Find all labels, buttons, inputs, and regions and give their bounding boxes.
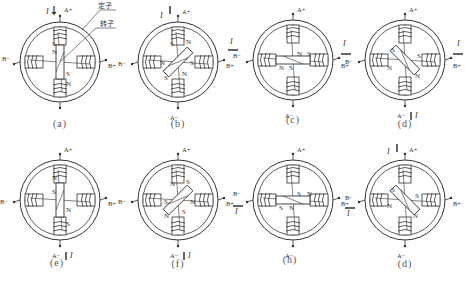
svg-text:N: N — [415, 72, 420, 80]
svg-text:B+: B+ — [226, 62, 234, 69]
svg-text:B+: B+ — [341, 200, 349, 207]
svg-text:B+: B+ — [108, 200, 116, 207]
svg-text:S: S — [297, 190, 301, 198]
svg-text:S: S — [164, 74, 168, 82]
svg-text:I: I — [386, 147, 390, 156]
svg-text:I: I — [187, 251, 191, 260]
svg-text:N: N — [66, 80, 71, 88]
svg-text:转子: 转子 — [100, 19, 114, 28]
svg-text:I: I — [229, 37, 233, 46]
svg-text:B+: B+ — [453, 200, 461, 207]
svg-text:A+: A+ — [182, 8, 191, 15]
svg-text:B−: B− — [0, 198, 8, 205]
svg-text:B−: B− — [118, 60, 126, 67]
svg-text:I: I — [69, 251, 73, 260]
caption-h: (h) — [283, 254, 298, 265]
svg-text:N: N — [170, 180, 175, 188]
panel-c: NS NS A+ A− B− B+ I — [233, 6, 351, 119]
svg-text:定子: 定子 — [98, 1, 112, 10]
caption-f: (f) — [172, 258, 185, 269]
svg-text:B−: B− — [2, 55, 10, 62]
svg-text:N: N — [164, 212, 169, 220]
svg-text:I: I — [414, 111, 418, 120]
svg-text:S: S — [190, 59, 194, 67]
svg-text:S: S — [307, 50, 311, 58]
svg-text:A+: A+ — [64, 6, 73, 13]
svg-text:B+: B+ — [453, 62, 461, 69]
caption-a: (a) — [53, 118, 67, 129]
panel-d2: SN SN A+ A− B− B+ I I — [345, 144, 461, 259]
panel-e: NS NS A+ A− B− B+ I — [0, 146, 116, 260]
panel-h: SN SN A+ A− B− B+ I — [233, 146, 349, 259]
svg-text:A+: A+ — [409, 6, 418, 13]
caption-e: (e) — [50, 257, 64, 268]
step-motor-diagram: SN SN A+ B− B+ I 定子 转子 SN NS SN A+ A− B−… — [0, 0, 466, 283]
caption-c: (c) — [286, 114, 300, 125]
svg-text:N: N — [387, 202, 392, 210]
svg-text:S: S — [66, 220, 70, 228]
svg-text:I: I — [45, 7, 49, 16]
svg-text:A+: A+ — [182, 146, 191, 153]
svg-text:N: N — [307, 190, 312, 198]
svg-text:N: N — [387, 64, 392, 72]
svg-text:S: S — [164, 198, 168, 206]
svg-text:B−: B− — [233, 190, 241, 197]
svg-text:N: N — [160, 59, 165, 67]
panel-b: SN NS SN A+ A− B− B+ I I — [118, 6, 238, 121]
svg-text:N: N — [279, 64, 284, 72]
svg-text:A+: A+ — [297, 146, 306, 153]
panel-a: SN SN A+ B− B+ I 定子 转子 — [2, 1, 116, 109]
svg-text:I: I — [456, 39, 460, 48]
panel-f: NS SN NS A+ A− B− B+ I — [118, 146, 234, 260]
caption-d2: (d) — [398, 258, 413, 269]
svg-text:N: N — [297, 50, 302, 58]
svg-text:N: N — [52, 48, 57, 56]
svg-text:N: N — [66, 206, 71, 214]
svg-text:S: S — [52, 40, 56, 48]
svg-text:S: S — [66, 70, 70, 78]
svg-text:S: S — [52, 188, 56, 196]
svg-text:N: N — [186, 38, 191, 46]
svg-text:I: I — [346, 209, 350, 218]
caption-b: (b) — [171, 118, 186, 129]
svg-text:S: S — [170, 40, 174, 48]
svg-text:B−: B− — [345, 194, 353, 201]
svg-text:N: N — [413, 212, 418, 220]
svg-text:A+: A+ — [64, 146, 73, 153]
svg-text:S: S — [417, 52, 421, 60]
svg-text:S: S — [186, 178, 190, 186]
svg-text:S: S — [415, 192, 419, 200]
svg-text:S: S — [391, 186, 395, 194]
svg-text:N: N — [182, 70, 187, 78]
svg-text:N: N — [289, 204, 294, 212]
svg-text:S: S — [289, 64, 293, 72]
svg-text:B−: B− — [345, 58, 353, 65]
svg-text:N: N — [52, 174, 57, 182]
svg-text:B−: B− — [118, 198, 126, 205]
svg-text:I: I — [159, 11, 163, 20]
svg-text:I: I — [342, 39, 346, 48]
svg-text:N: N — [190, 198, 195, 206]
svg-text:A+: A+ — [297, 6, 306, 13]
svg-text:I: I — [234, 207, 238, 216]
caption-d: (d) — [398, 118, 413, 129]
svg-text:S: S — [182, 208, 186, 216]
svg-text:B+: B+ — [108, 62, 116, 69]
svg-text:S: S — [391, 46, 395, 54]
panel-d: SN SN A+ A− B− B+ I I — [345, 6, 463, 120]
svg-text:B−: B− — [233, 52, 241, 59]
svg-text:S: S — [279, 204, 283, 212]
svg-text:A+: A+ — [409, 146, 418, 153]
